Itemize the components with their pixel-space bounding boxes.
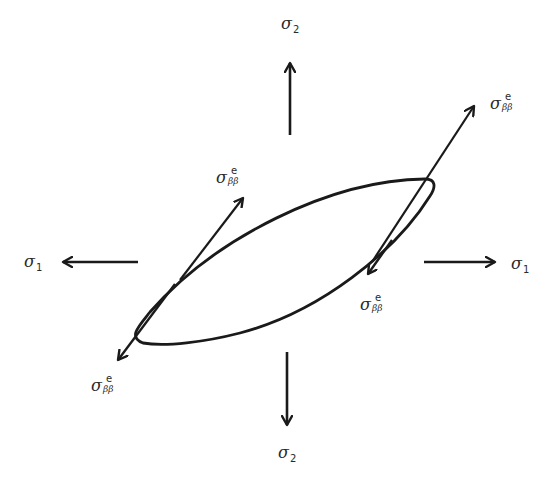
label-sigma-bb-lower-left: σeββ <box>91 378 121 398</box>
sigma-bb-lower-right-arrow <box>368 240 392 274</box>
sigma-bb-upper-left-arrow <box>180 198 243 280</box>
label-sigma-bb-upper-right: σeββ <box>490 96 520 116</box>
stress-diagram <box>0 0 550 481</box>
sigma-bb-lower-left-arrow <box>118 284 175 360</box>
sigma-bb-upper-right-arrow <box>372 106 474 262</box>
label-sigma1-left: σ1 <box>24 254 42 270</box>
label-sigma2-bottom: σ2 <box>278 445 296 461</box>
label-sigma2-top: σ2 <box>281 16 299 32</box>
label-sigma1-right: σ1 <box>511 256 529 272</box>
lens-crack-outline <box>135 179 434 344</box>
label-sigma-bb-lower-right: σeββ <box>360 297 390 317</box>
label-sigma-bb-upper-left: σeββ <box>216 170 246 190</box>
